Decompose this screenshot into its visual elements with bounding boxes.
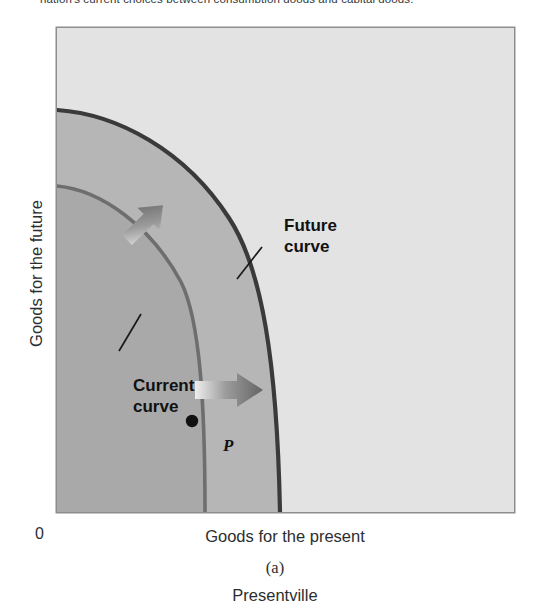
- origin-label: 0: [35, 525, 44, 543]
- ppf-chart-svg: [57, 28, 514, 512]
- x-axis-title: Goods for the present: [130, 527, 440, 546]
- future-curve-label-line2: curve: [284, 236, 337, 257]
- plot-area: Future curve Current curve P: [57, 28, 514, 512]
- point-p-label: P: [223, 436, 233, 456]
- panel-letter: (a): [175, 558, 375, 578]
- current-curve-label: Current curve: [133, 375, 194, 417]
- current-curve-label-line2: curve: [133, 396, 194, 417]
- panel-caption: Presentville: [175, 586, 375, 605]
- clipped-body-text: nation's current choices between consump…: [40, 0, 510, 3]
- figure-container: nation's current choices between consump…: [0, 0, 551, 611]
- current-curve-label-line1: Current: [133, 375, 194, 396]
- future-curve-label-line1: Future: [284, 215, 337, 236]
- future-curve-label: Future curve: [284, 215, 337, 257]
- y-axis-title: Goods for the future: [27, 159, 46, 389]
